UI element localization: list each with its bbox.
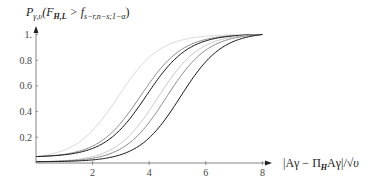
series-curve-5 — [36, 35, 262, 162]
x-axis-title: |Aγ − ΠHAγ|/√υ — [283, 156, 359, 172]
y-tick-label: 0.2 — [20, 132, 33, 143]
series-curve-4 — [36, 35, 262, 162]
x-tick-label: 2 — [90, 167, 95, 178]
power-curve-chart: 2468 0.20.40.60.81. Pγ,υ(FH,L > fs−r,n−s… — [0, 0, 380, 180]
y-axis-title: Pγ,υ(FH,L > fs−r,n−s;1−α) — [25, 5, 130, 21]
x-tick-label: 4 — [147, 167, 152, 178]
x-tick-label: 6 — [203, 167, 208, 178]
y-axis-arrow-icon — [34, 26, 39, 33]
x-tick-label: 8 — [260, 167, 265, 178]
y-tick-label: 1. — [25, 29, 33, 40]
curves-group — [36, 35, 262, 162]
x-ticks: 2468 — [90, 161, 265, 178]
y-ticks: 0.20.40.60.81. — [20, 29, 39, 143]
y-tick-label: 0.8 — [20, 55, 33, 66]
series-curve-6 — [36, 35, 262, 162]
y-tick-label: 0.6 — [20, 80, 33, 91]
x-axis-arrow-icon — [265, 161, 272, 166]
y-tick-label: 0.4 — [20, 106, 33, 117]
